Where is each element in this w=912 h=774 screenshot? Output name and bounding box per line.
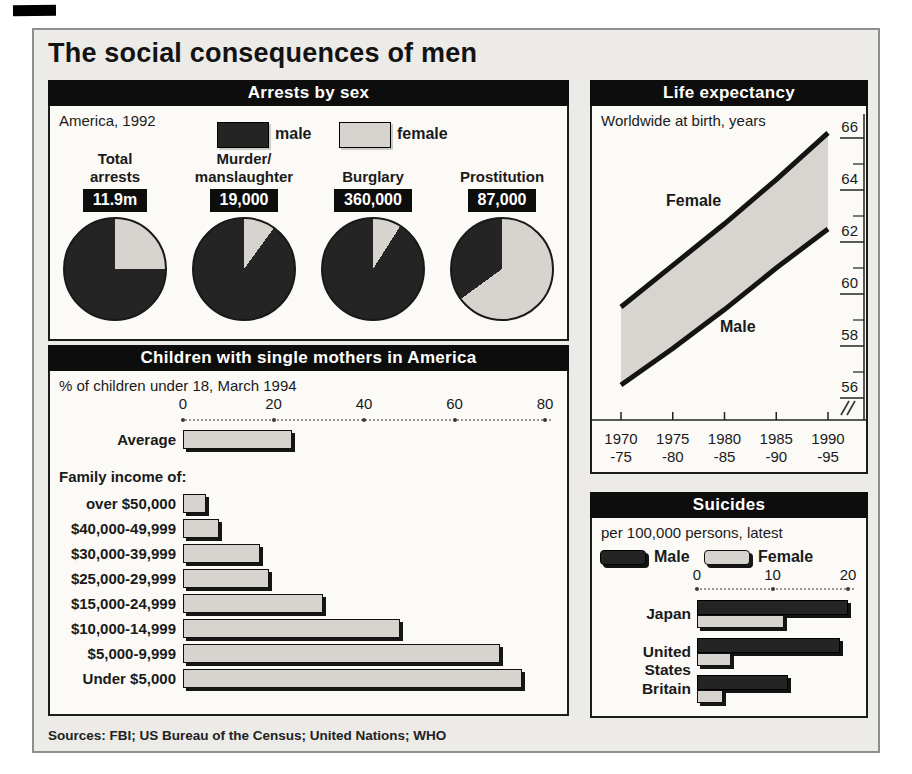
axis-tick-dot bbox=[695, 587, 699, 591]
country-label-0: Japan bbox=[592, 605, 691, 623]
pie-group-2: Burglary360,000 bbox=[310, 144, 436, 321]
pie-group-3: Prostitution87,000 bbox=[439, 144, 565, 321]
income-row-4-bar bbox=[183, 594, 323, 613]
country-label-1: United States bbox=[592, 643, 691, 679]
pie-group-0: Total arrests11.9m bbox=[52, 144, 178, 321]
pie-chart-2 bbox=[321, 217, 425, 321]
life-expectancy-subtitle: Worldwide at birth, years bbox=[601, 112, 766, 129]
pie-chart-0 bbox=[63, 217, 167, 321]
infographic-board: The social consequences of men Arrests b… bbox=[32, 28, 880, 753]
arrests-pies: Total arrests11.9mMurder/ manslaughter19… bbox=[52, 144, 565, 321]
suicides-female-legend-swatch bbox=[704, 550, 750, 565]
pie-category-label: Murder/ manslaughter bbox=[195, 144, 293, 186]
pie-category-label: Total arrests bbox=[90, 144, 140, 186]
country-label-2: Britain bbox=[592, 680, 691, 698]
suicides-panel: Suicides per 100,000 persons, latest Mal… bbox=[590, 492, 868, 718]
male-legend-label: male bbox=[275, 125, 311, 143]
x-tick-label: 1970 bbox=[604, 430, 637, 447]
income-row-3-label: $25,000-29,999 bbox=[50, 569, 176, 588]
pie-value-badge: 19,000 bbox=[210, 189, 279, 212]
income-row-7-bar bbox=[183, 669, 522, 688]
pie-value-badge: 87,000 bbox=[468, 189, 537, 212]
income-row-0-bar bbox=[183, 494, 206, 513]
income-row-3-bar bbox=[183, 569, 269, 588]
income-row-5-label: $10,000-14,999 bbox=[50, 619, 176, 638]
suicides-body: per 100,000 persons, latest Male Female … bbox=[590, 518, 868, 718]
gender-gap-band bbox=[621, 133, 828, 385]
pie-category-label: Burglary bbox=[342, 144, 404, 186]
suicide-female-bar-0 bbox=[697, 615, 784, 628]
suicides-subtitle: per 100,000 persons, latest bbox=[601, 524, 783, 541]
suicide-female-bar-1 bbox=[697, 653, 731, 666]
axis-tick-dot bbox=[543, 418, 547, 422]
life-expectancy-chart: 6664626058561970-751975-801980-851985-90… bbox=[592, 106, 866, 472]
suicide-female-bar-2 bbox=[697, 690, 723, 703]
axis-tick-dot bbox=[362, 418, 366, 422]
single-mothers-header: Children with single mothers in America bbox=[48, 345, 569, 371]
infographic-page: { "page": { "title": "The social consequ… bbox=[0, 0, 912, 774]
male-series-label: Male bbox=[720, 318, 756, 335]
page-title: The social consequences of men bbox=[48, 38, 477, 69]
axis-tick-dot bbox=[453, 418, 457, 422]
x-tick-label: -95 bbox=[817, 448, 839, 465]
x-tick-label: -90 bbox=[765, 448, 787, 465]
y-tick-label: 66 bbox=[841, 118, 858, 135]
axis-tick-label: 60 bbox=[446, 395, 463, 412]
female-series-label: Female bbox=[666, 192, 721, 209]
x-tick-label: -85 bbox=[714, 448, 736, 465]
family-income-group-label: Family income of: bbox=[59, 468, 187, 485]
income-row-1-bar bbox=[183, 519, 219, 538]
average-row-label: Average bbox=[50, 430, 176, 449]
arrests-subtitle: America, 1992 bbox=[59, 112, 156, 129]
y-tick-label: 58 bbox=[841, 326, 858, 343]
x-tick-label: 1990 bbox=[811, 430, 844, 447]
single-mothers-subtitle: % of children under 18, March 1994 bbox=[59, 377, 297, 394]
suicides-female-legend-label: Female bbox=[758, 548, 813, 566]
pie-value-badge-wrap: 11.9m bbox=[83, 186, 147, 212]
y-tick-label: 56 bbox=[841, 378, 858, 395]
income-row-2-bar bbox=[183, 544, 260, 563]
suicide-male-bar-0 bbox=[697, 600, 848, 615]
axis-tick-label: 20 bbox=[265, 395, 282, 412]
axis-tick-dot bbox=[181, 418, 185, 422]
average-row-bar bbox=[183, 430, 292, 449]
income-row-6-bar bbox=[183, 644, 500, 663]
axis-tick-label: 80 bbox=[537, 395, 554, 412]
suicides-header: Suicides bbox=[590, 492, 868, 518]
life-expectancy-header: Life expectancy bbox=[590, 80, 868, 106]
arrests-panel: Arrests by sex America, 1992 male female… bbox=[48, 80, 569, 341]
pie-value-badge: 11.9m bbox=[83, 189, 147, 212]
female-legend-label: female bbox=[397, 125, 448, 143]
axis-tick-label: 0 bbox=[179, 395, 187, 412]
axis-tick-label: 0 bbox=[693, 566, 701, 583]
axis-dotted-line bbox=[695, 588, 854, 590]
pie-chart-1 bbox=[192, 217, 296, 321]
axis-tick-label: 20 bbox=[840, 566, 857, 583]
life-expectancy-body: 6664626058561970-751975-801980-851985-90… bbox=[590, 106, 868, 474]
axis-dotted-line bbox=[181, 419, 551, 421]
pie-value-badge-wrap: 19,000 bbox=[210, 186, 279, 212]
pie-category-label: Prostitution bbox=[460, 144, 544, 186]
x-tick-label: -80 bbox=[662, 448, 684, 465]
pie-value-badge-wrap: 87,000 bbox=[468, 186, 537, 212]
arrests-body: America, 1992 male female Total arrests1… bbox=[48, 106, 569, 341]
pie-value-badge-wrap: 360,000 bbox=[334, 186, 412, 212]
y-tick-label: 62 bbox=[841, 222, 858, 239]
scan-edge-mark bbox=[13, 5, 56, 16]
x-tick-label: 1985 bbox=[760, 430, 793, 447]
income-row-4-label: $15,000-24,999 bbox=[50, 594, 176, 613]
income-row-7-label: Under $5,000 bbox=[50, 669, 176, 688]
income-row-6-label: $5,000-9,999 bbox=[50, 644, 176, 663]
axis-tick-dot bbox=[846, 587, 850, 591]
pie-chart-3 bbox=[450, 217, 554, 321]
suicide-male-bar-1 bbox=[697, 638, 840, 653]
life-expectancy-panel: Life expectancy 6664626058561970-751975-… bbox=[590, 80, 868, 474]
suicides-male-legend-label: Male bbox=[654, 548, 690, 566]
income-row-0-label: over $50,000 bbox=[50, 494, 176, 513]
single-mothers-panel: Children with single mothers in America … bbox=[48, 345, 569, 716]
sources-note: Sources: FBI; US Bureau of the Census; U… bbox=[48, 728, 446, 743]
axis-tick-label: 10 bbox=[764, 566, 781, 583]
arrests-header: Arrests by sex bbox=[48, 80, 569, 106]
pie-value-badge: 360,000 bbox=[334, 189, 412, 212]
axis-tick-dot bbox=[272, 418, 276, 422]
